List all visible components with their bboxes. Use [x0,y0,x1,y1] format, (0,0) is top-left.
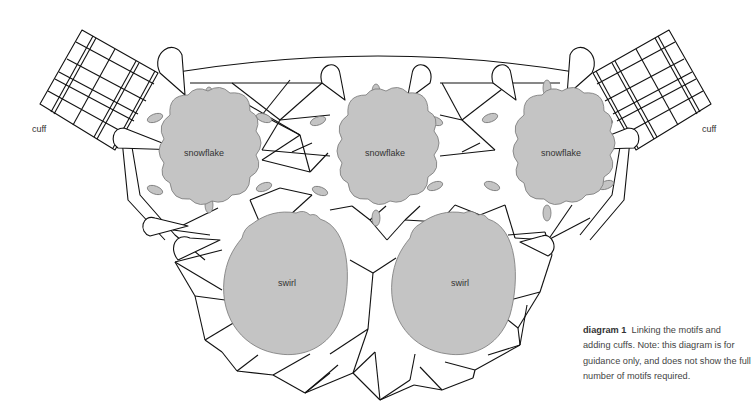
snowflake-right-label: snowflake [541,148,581,158]
cuff-left-label: cuff [32,124,46,134]
diagram-caption: diagram 1 Linking the motifs and adding … [583,323,751,385]
cuff-right-label: cuff [702,124,716,134]
motif-snowflake-left [159,87,261,204]
cuff-left-grid [40,30,158,150]
motif-snowflake-right [513,87,615,204]
motif-snowflake-center [337,87,439,204]
snowflake-left-label: snowflake [184,148,224,158]
swirl-right-label: swirl [451,278,469,288]
snowflake-center-label: snowflake [365,148,405,158]
swirl-left-label: swirl [278,278,296,288]
caption-title: diagram 1 [583,325,626,335]
